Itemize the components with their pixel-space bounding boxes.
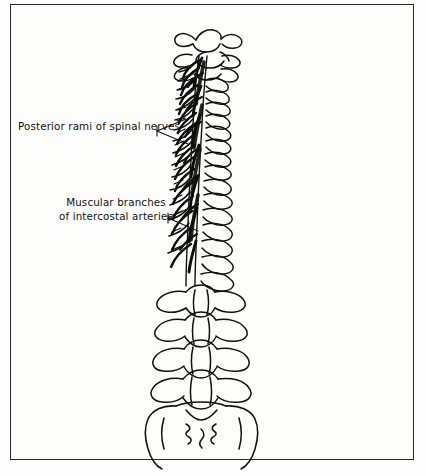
figure-border: [10, 4, 414, 460]
label-posterior-rami-text: Posterior rami of spinal nerves: [18, 120, 180, 132]
label-posterior-rami-of-spinal-nerves: Posterior rami of spinal nerves: [18, 120, 180, 134]
label-muscular-branches-of-intercostal-arteries: Muscular branches of intercostal arterie…: [56, 196, 176, 223]
figure-root: Posterior rami of spinal nerves Muscular…: [0, 0, 426, 476]
label-muscular-branches-line2: of intercostal arteries: [56, 210, 176, 224]
label-muscular-branches-line1: Muscular branches: [56, 196, 176, 210]
